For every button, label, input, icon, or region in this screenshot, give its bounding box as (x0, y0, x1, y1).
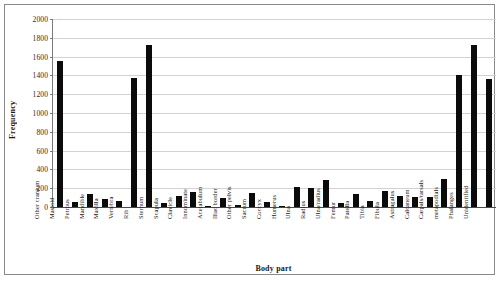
bar-slot (53, 19, 68, 207)
bar-slot (452, 19, 467, 207)
bar (146, 45, 152, 207)
y-tick-label: 1600 (33, 52, 48, 61)
bar-slot (274, 19, 289, 207)
bar-slot (260, 19, 275, 207)
y-tick-label: 1200 (33, 90, 48, 99)
x-axis-title: Body part (52, 264, 495, 273)
bar-slot (466, 19, 481, 207)
bar-slot (97, 19, 112, 207)
bar-slot (437, 19, 452, 207)
bar-slot (127, 19, 142, 207)
y-tick-label: 1400 (33, 71, 48, 80)
bar-slot (393, 19, 408, 207)
bar-slot (186, 19, 201, 207)
plot-area (52, 19, 496, 208)
y-axis-tick-labels: 0200400600800100012001400160018002000 (19, 19, 51, 207)
bar-slot (215, 19, 230, 207)
bar-slot (363, 19, 378, 207)
bar-slot (319, 19, 334, 207)
y-tick-label: 400 (36, 165, 48, 174)
bar-slot (156, 19, 171, 207)
bar-slot (481, 19, 496, 207)
bar (486, 79, 492, 207)
y-tick-label: 2000 (33, 15, 48, 24)
bar-slot (348, 19, 363, 207)
y-tick-label: 1800 (33, 33, 48, 42)
bar-slot (201, 19, 216, 207)
x-slot: Unidentified (480, 209, 495, 261)
bar-slot (230, 19, 245, 207)
x-tick-label: Unidentified (462, 209, 501, 219)
bar (57, 61, 63, 207)
bar-slot (422, 19, 437, 207)
y-tick-label: 1000 (33, 109, 48, 118)
x-axis-tick-labels: Other craniumMastoidPetrousMandibleMaxil… (52, 209, 495, 261)
y-axis-title: Frequency (5, 65, 19, 175)
bar-slot (142, 19, 157, 207)
bar-slot (112, 19, 127, 207)
bar-slot (334, 19, 349, 207)
bar-slot (171, 19, 186, 207)
y-tick-label: 600 (36, 146, 48, 155)
bar-slot (407, 19, 422, 207)
bar-series (53, 19, 496, 207)
bar-slot (304, 19, 319, 207)
bar (471, 45, 477, 207)
bar-slot (245, 19, 260, 207)
bar-slot (378, 19, 393, 207)
y-tick-label: 800 (36, 127, 48, 136)
bar-slot (83, 19, 98, 207)
bar (116, 201, 122, 207)
bar-slot (68, 19, 83, 207)
bar-slot (289, 19, 304, 207)
chart-frame: Frequency 020040060080010001200140016001… (4, 4, 495, 275)
bar (131, 78, 137, 207)
